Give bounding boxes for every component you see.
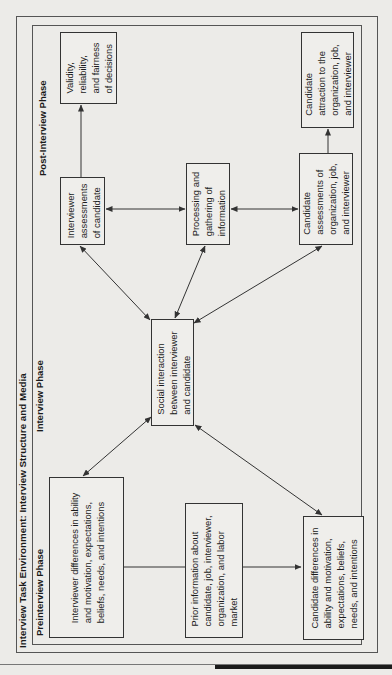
box-candidate-attraction: Candidate attraction to the organization… bbox=[301, 32, 354, 128]
box-interviewer-assessments: Interviewer assessments of candidate bbox=[60, 177, 105, 245]
box-text: Interviewer differences in ability and m… bbox=[67, 492, 106, 623]
page-rule-thick bbox=[215, 665, 392, 669]
box-text: Candidate differences in ability and mot… bbox=[308, 528, 360, 629]
box-text: Candidate attraction to the organization… bbox=[302, 44, 354, 115]
box-prior-information: Prior information about candidate, job, … bbox=[185, 503, 243, 638]
box-candidate-assessments: Candidate assessments of organization, j… bbox=[299, 153, 353, 245]
box-validity-reliability-fairness: Validity, reliability, and fairness of d… bbox=[60, 32, 117, 104]
box-text: Interviewer assessments of candidate bbox=[63, 184, 102, 239]
box-text: Social interaction between interviewer a… bbox=[153, 331, 192, 414]
box-text: Processing and gathering of information bbox=[189, 172, 228, 237]
box-text: Candidate assessments of organization, j… bbox=[300, 163, 352, 234]
box-text: Prior information about candidate, job, … bbox=[188, 515, 240, 626]
box-social-interaction: Social interaction between interviewer a… bbox=[151, 319, 194, 426]
box-processing-information: Processing and gathering of information bbox=[186, 163, 230, 245]
box-interviewer-differences: Interviewer differences in ability and m… bbox=[49, 477, 124, 638]
box-text: Validity, reliability, and fairness of d… bbox=[63, 42, 115, 93]
box-candidate-differences: Candidate differences in ability and mot… bbox=[303, 516, 364, 640]
